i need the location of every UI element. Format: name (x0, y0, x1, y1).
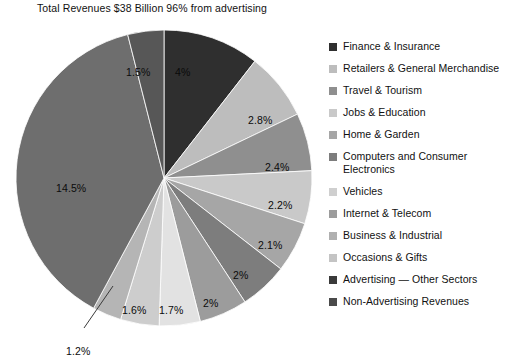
pie-slice-value-label: 1.6% (122, 304, 146, 316)
legend-item-label: Vehicles (343, 185, 383, 198)
legend-swatch-icon (329, 131, 337, 139)
legend-item[interactable]: Jobs & Education (329, 106, 505, 119)
legend-item[interactable]: Retailers & General Merchandise (329, 62, 505, 75)
legend-item[interactable]: Home & Garden (329, 128, 505, 141)
pie-slice-value-label: 1.5% (126, 66, 150, 78)
legend-item[interactable]: Occasions & Gifts (329, 251, 505, 264)
legend-item[interactable]: Non-Advertising Revenues (329, 295, 505, 308)
legend-swatch-icon (329, 232, 337, 240)
legend-item-label: Jobs & Education (343, 106, 426, 119)
pie-slice-value-label: 4% (175, 66, 190, 78)
chart-legend: Finance & InsuranceRetailers & General M… (329, 40, 505, 317)
legend-swatch-icon (329, 109, 337, 117)
legend-swatch-icon (329, 210, 337, 218)
pie-chart-svg (0, 14, 330, 346)
legend-item-label: Travel & Tourism (343, 84, 422, 97)
legend-item[interactable]: Business & Industrial (329, 229, 505, 242)
pie-slice-value-label: 2% (203, 297, 218, 309)
pie-slice-group (16, 30, 312, 326)
pie-slice-value-label: 2.4% (265, 161, 289, 173)
legend-item-label: Retailers & General Merchandise (343, 62, 499, 75)
legend-item[interactable]: Advertising — Other Sectors (329, 273, 505, 286)
legend-swatch-icon (329, 65, 337, 73)
legend-item-label: Business & Industrial (343, 229, 442, 242)
legend-item-label: Home & Garden (343, 128, 420, 141)
legend-item-label: Non-Advertising Revenues (343, 295, 469, 308)
legend-item[interactable]: Travel & Tourism (329, 84, 505, 97)
pie-slice-value-label: 14.5% (56, 182, 86, 194)
legend-item-label: Occasions & Gifts (343, 251, 427, 264)
pie-slice-value-label: 1.7% (159, 304, 183, 316)
pie-slice-value-label: 2.1% (258, 239, 282, 251)
legend-item-label: Advertising — Other Sectors (343, 273, 477, 286)
legend-swatch-icon (329, 153, 337, 161)
pie-chart: 4%2.8%2.4%2.2%2.1%2%2%1.7%1.6%1.2%14.5%1… (0, 14, 330, 346)
legend-item-label: Finance & Insurance (343, 40, 440, 53)
legend-swatch-icon (329, 298, 337, 306)
pie-slice-value-label: 2% (233, 269, 248, 281)
legend-swatch-icon (329, 188, 337, 196)
pie-slice-value-label: 2.2% (268, 199, 292, 211)
legend-item-label: Computers and Consumer Electronics (343, 150, 493, 176)
legend-swatch-icon (329, 254, 337, 262)
legend-item-label: Internet & Telecom (343, 207, 431, 220)
legend-item[interactable]: Internet & Telecom (329, 207, 505, 220)
legend-item[interactable]: Computers and Consumer Electronics (329, 150, 505, 176)
legend-item[interactable]: Vehicles (329, 185, 505, 198)
pie-slice-value-label: 2.8% (248, 114, 272, 126)
legend-swatch-icon (329, 43, 337, 51)
legend-item[interactable]: Finance & Insurance (329, 40, 505, 53)
legend-swatch-icon (329, 276, 337, 284)
legend-swatch-icon (329, 87, 337, 95)
pie-slice-value-label: 1.2% (66, 345, 90, 357)
